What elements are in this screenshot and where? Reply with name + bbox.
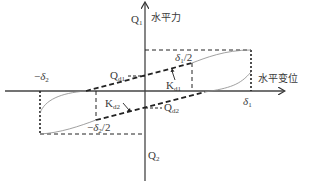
q1-label: Q1	[131, 14, 142, 29]
neg-delta2-label: −δ2	[34, 71, 49, 86]
x-axis-label: 水平变位	[258, 73, 298, 84]
y-axis-label: 水平力	[151, 12, 181, 23]
delta1-half-label: δ1/2	[175, 52, 192, 67]
kd2-pointer-icon	[123, 103, 129, 110]
q2-label: Q2	[148, 150, 159, 165]
qd2-label: Qd2	[164, 102, 179, 117]
delta1-label: δ1	[243, 96, 252, 111]
qd1-label: Qd1	[110, 70, 125, 85]
kd1-label: Kd1	[166, 80, 181, 95]
kd2-label: Kd2	[105, 98, 120, 113]
neg-delta2-half-label: −δ2/2	[87, 122, 110, 137]
